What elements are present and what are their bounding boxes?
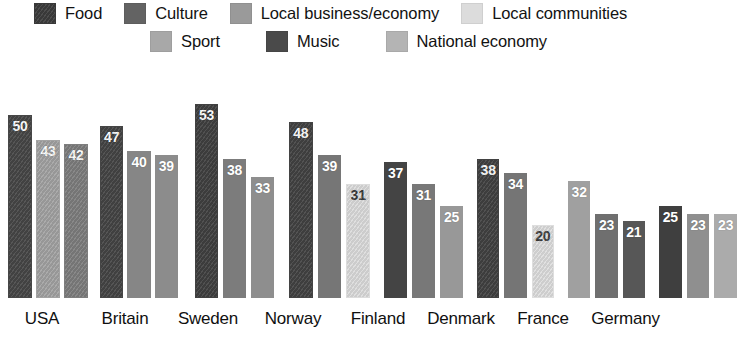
bar[interactable]: 39 [318,155,342,298]
bar-value-label: 23 [688,218,709,233]
bar-value-label: 25 [441,210,462,225]
bar[interactable]: 25 [440,206,463,298]
legend-item[interactable]: Food [34,3,102,24]
x-axis-tick-label: Norway [265,300,321,329]
bar-value-label: 39 [156,159,177,174]
x-axis-tick: Britain [84,300,166,339]
x-axis-tick: Denmark [420,300,502,339]
legend-item[interactable]: Culture [124,3,208,24]
bar-group: 373125 [375,78,468,298]
legend-item[interactable]: National economy [386,31,547,52]
bar-group: 504342 [0,78,92,298]
legend-item-label: Music [297,32,340,51]
bar[interactable]: 50 [8,115,32,298]
bar-value-label: 33 [252,181,273,196]
bar-value-label: 31 [347,188,369,203]
legend-swatch-icon [266,31,288,52]
bar[interactable]: 23 [595,214,617,298]
bar-group: 322321 [559,78,650,298]
bar-value-label: 21 [624,225,644,240]
legend-swatch-icon [461,3,483,24]
x-axis-labels: USABritainSwedenNorwayFinlandDenmarkFran… [0,300,667,339]
bar-group: 383420 [468,78,559,298]
x-axis-tick: Finland [336,300,420,339]
legend-swatch-icon [150,31,172,52]
bar-value-label: 20 [533,229,553,244]
x-axis-tick-label: USA [25,300,59,329]
bar[interactable]: 42 [64,144,88,298]
x-axis-tick-label: Finland [351,300,405,329]
bar[interactable]: 37 [384,162,407,298]
x-axis-tick-label: Denmark [427,300,495,329]
legend-item[interactable]: Sport [150,31,220,52]
bar-value-label: 43 [37,144,59,159]
bar[interactable]: 21 [623,221,645,298]
legend-item[interactable]: Local business/economy [230,3,440,24]
bar-group: 252323 [650,78,741,298]
chart-legend: FoodCultureLocal business/economyLocal c… [0,0,667,56]
bar[interactable]: 31 [346,184,370,298]
legend-item-label: Sport [181,32,220,51]
x-axis-tick-label: Germany [591,300,660,329]
legend-item-label: Culture [155,4,208,23]
bar[interactable]: 31 [412,184,435,298]
bar[interactable]: 53 [195,104,218,298]
bar-value-label: 48 [290,126,312,141]
legend-item-label: Local business/economy [261,4,440,23]
bar[interactable]: 32 [568,181,590,298]
bar-value-label: 50 [9,119,31,134]
legend-item-label: Food [65,4,102,23]
bar[interactable]: 38 [477,159,499,298]
x-axis-tick: Norway [250,300,336,339]
bar-value-label: 38 [478,163,498,178]
bar-value-label: 23 [596,218,616,233]
bar[interactable]: 34 [504,173,526,298]
bar[interactable]: 39 [155,155,178,298]
x-axis-tick-label: Sweden [178,300,238,329]
bar[interactable]: 43 [36,140,60,298]
legend-swatch-icon [230,3,252,24]
legend-item-label: National economy [417,32,547,51]
bar-value-label: 34 [505,177,525,192]
bar-value-label: 42 [65,148,87,163]
bar-value-label: 23 [715,218,736,233]
bar[interactable]: 23 [687,214,710,298]
legend-row-2: SportMusicNational economy [0,26,667,56]
bar-value-label: 38 [224,163,245,178]
legend-swatch-icon [34,3,56,24]
bar[interactable]: 25 [659,206,682,298]
x-axis-tick: USA [0,300,84,339]
bar-value-label: 47 [101,130,122,145]
bar[interactable]: 33 [251,177,274,298]
bar-group: 533833 [182,78,279,298]
legend-swatch-icon [386,31,408,52]
bar[interactable]: 38 [223,159,246,298]
x-axis-tick-label: France [517,300,569,329]
bar[interactable]: 23 [714,214,737,298]
bar[interactable]: 20 [532,225,554,298]
x-axis-tick: Germany [584,300,667,339]
bar-value-label: 32 [569,185,589,200]
bar-group: 483931 [279,78,375,298]
bar-value-label: 25 [660,210,681,225]
legend-item-label: Local communities [492,4,627,23]
bar[interactable]: 40 [127,151,150,298]
bar[interactable]: 48 [289,122,313,298]
legend-row-1: FoodCultureLocal business/economyLocal c… [0,0,667,26]
x-axis-tick: Sweden [166,300,250,339]
legend-swatch-icon [124,3,146,24]
bar-group: 474039 [92,78,182,298]
bar-value-label: 31 [413,188,434,203]
bar[interactable]: 47 [100,126,123,298]
x-axis-tick-label: Britain [102,300,149,329]
plot-area: 5043424740395338334839313731253834203223… [0,78,667,298]
bar-value-label: 39 [319,159,341,174]
x-axis-tick: France [502,300,584,339]
legend-item[interactable]: Music [266,31,340,52]
bar-value-label: 53 [196,108,217,123]
bar-value-label: 40 [128,155,149,170]
bar-value-label: 37 [385,166,406,181]
bar-groups: 5043424740395338334839313731253834203223… [0,78,667,298]
legend-item[interactable]: Local communities [461,3,627,24]
